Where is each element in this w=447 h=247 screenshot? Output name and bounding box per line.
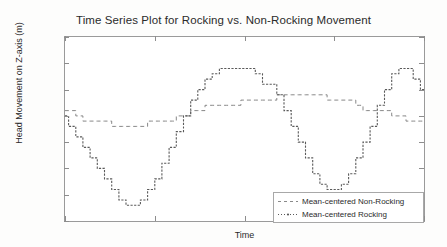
y-axis-label: Head Movement on Z-axis (m) — [14, 0, 24, 168]
y-tick-mark-right — [419, 90, 424, 91]
legend-label-non-rocking: Mean-centered Non-Rocking — [302, 197, 404, 206]
y-tick-mark — [64, 142, 69, 143]
x-tick-mark-top — [334, 36, 335, 41]
y-tick-mark-right — [419, 168, 424, 169]
x-tick-mark — [245, 216, 246, 221]
x-tick-mark-top — [424, 36, 425, 41]
y-tick-mark — [64, 90, 69, 91]
y-tick-mark — [64, 116, 69, 117]
x-tick-mark — [155, 216, 156, 221]
y-tick-mark-right — [419, 142, 424, 143]
x-tick-mark-top — [245, 36, 246, 41]
x-tick-mark-top — [155, 36, 156, 41]
y-tick-mark — [64, 195, 69, 196]
x-tick-mark-top — [65, 36, 66, 41]
legend-item-rocking[interactable]: Mean-centered Rocking — [277, 208, 420, 221]
y-tick-mark — [64, 221, 69, 222]
chart-title: Time Series Plot for Rocking vs. Non-Roc… — [0, 14, 447, 26]
y-tick-mark — [64, 168, 69, 169]
y-tick-mark-right — [419, 116, 424, 117]
series-line-rocking — [65, 69, 424, 206]
y-tick-mark — [64, 63, 69, 64]
chart-figure: Time Series Plot for Rocking vs. Non-Roc… — [0, 0, 447, 247]
chart-legend[interactable]: Mean-centered Non-Rocking Mean-centered … — [273, 192, 424, 223]
x-axis-label: Time — [64, 230, 425, 240]
legend-item-non-rocking[interactable]: Mean-centered Non-Rocking — [277, 195, 420, 208]
legend-swatch-dashed-icon — [277, 197, 299, 206]
x-tick-mark — [424, 216, 425, 221]
x-tick-mark — [65, 216, 66, 221]
legend-label-rocking: Mean-centered Rocking — [302, 210, 387, 219]
y-tick-mark-right — [419, 63, 424, 64]
series-line-non-rocking — [65, 95, 424, 127]
legend-swatch-dotdash-icon — [277, 210, 299, 219]
